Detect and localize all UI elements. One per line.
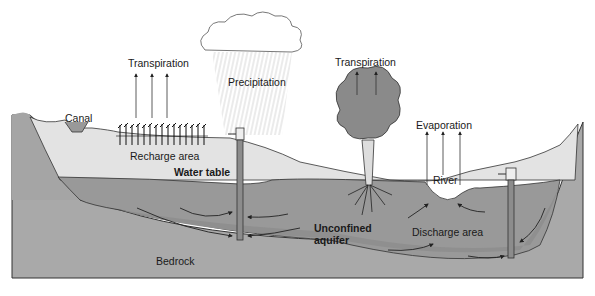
label-evaporation: Evaporation [416, 119, 472, 131]
transpiration-arrows-left [136, 74, 167, 118]
cloud [201, 12, 302, 52]
label-river: River [433, 174, 458, 186]
label-precipitation: Precipitation [228, 76, 286, 88]
groundwater-diagram: Transpiration Precipitation Transpiratio… [0, 0, 595, 296]
rain [212, 52, 292, 135]
unsaturated-zone [30, 117, 578, 181]
label-unconfined-line2: aquifer [314, 234, 349, 246]
label-recharge-area: Recharge area [130, 150, 200, 162]
label-bedrock: Bedrock [156, 255, 195, 267]
label-transpiration-right: Transpiration [335, 56, 396, 68]
label-canal: Canal [65, 112, 92, 124]
label-unconfined-line1: Unconfined [314, 222, 372, 234]
label-water-table: Water table [174, 166, 230, 178]
label-transpiration-left: Transpiration [128, 57, 189, 69]
label-discharge-area: Discharge area [412, 226, 483, 238]
